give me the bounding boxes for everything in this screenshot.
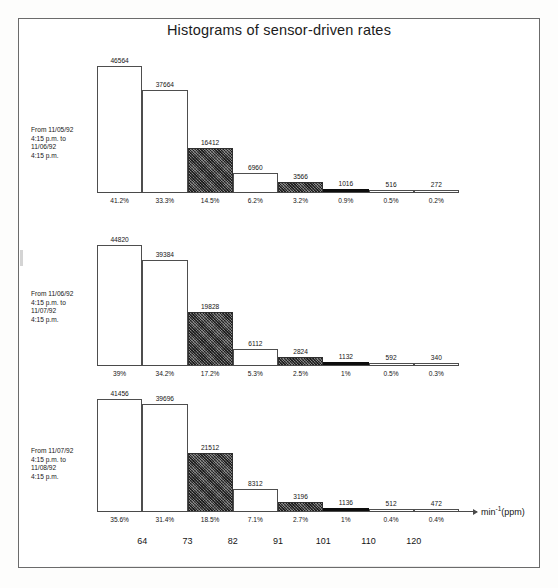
x-axis-unit-label: min-1(ppm) <box>481 505 525 517</box>
bar-percent-label: 2.7% <box>293 516 308 523</box>
x-axis-tick: 101 <box>316 536 331 546</box>
panel-baseline <box>97 192 459 193</box>
panel-baseline <box>97 511 459 512</box>
bar-percent-label: 6.2% <box>248 197 263 204</box>
bar-percent-label: 34.2% <box>156 370 175 377</box>
histogram-bar <box>414 509 459 511</box>
histogram-bar <box>233 173 278 192</box>
bar-percent-label: 35.6% <box>110 516 129 523</box>
bar-value-label: 472 <box>431 500 442 507</box>
bar-percent-label: 0.2% <box>429 197 444 204</box>
scanned-page: Histograms of sensor-driven rates From 1… <box>0 0 558 588</box>
histogram-bar <box>188 148 233 192</box>
histogram-bar <box>369 363 414 365</box>
bar-value-label: 3566 <box>293 173 308 180</box>
histogram-bar <box>414 363 459 365</box>
bar-value-label: 1132 <box>339 353 353 360</box>
histogram-bar <box>233 349 278 365</box>
histogram-bar <box>188 453 233 511</box>
bar-percent-label: 18.5% <box>201 516 220 523</box>
bar-value-label: 6112 <box>248 340 262 347</box>
bar-value-label: 8312 <box>248 480 263 487</box>
bar-percent-label: 0.3% <box>429 370 444 377</box>
bar-value-label: 6960 <box>248 164 263 171</box>
bar-value-label: 512 <box>386 500 397 507</box>
histogram-bar <box>233 489 278 511</box>
histogram-bar <box>369 509 414 511</box>
histogram-bar <box>278 502 323 511</box>
bar-percent-label: 33.3% <box>156 197 175 204</box>
bar-percent-label: 0.9% <box>338 197 353 204</box>
histogram-bar <box>97 245 142 365</box>
bar-percent-label: 3.2% <box>293 197 308 204</box>
bar-percent-label: 0.5% <box>384 197 399 204</box>
bar-value-label: 21512 <box>201 444 219 451</box>
bar-percent-label: 1% <box>341 516 351 523</box>
histogram-bar <box>414 190 459 192</box>
bar-percent-label: 0.4% <box>429 516 444 523</box>
bar-value-label: 592 <box>386 354 397 361</box>
histogram-bar <box>369 190 414 192</box>
histogram-bar <box>97 399 142 511</box>
x-axis-tick: 73 <box>182 536 192 546</box>
bar-percent-label: 14.5% <box>201 197 220 204</box>
bar-percent-label: 31.4% <box>156 516 175 523</box>
x-axis-tick: 91 <box>273 536 283 546</box>
histogram-bar <box>323 508 368 511</box>
bar-value-label: 19828 <box>201 303 219 310</box>
bar-percent-label: 1% <box>341 370 351 377</box>
bar-percent-label: 5.3% <box>248 370 263 377</box>
x-axis-tick: 64 <box>137 536 147 546</box>
x-axis-tick: 110 <box>361 536 375 546</box>
histogram-bar <box>323 362 368 365</box>
bar-percent-label: 17.2% <box>201 370 220 377</box>
histogram-bar <box>278 182 323 192</box>
figure-title: Histograms of sensor-driven rates <box>0 22 558 38</box>
bar-value-label: 1016 <box>339 180 354 187</box>
bar-value-label: 272 <box>431 181 442 188</box>
histogram-bar <box>188 312 233 365</box>
bar-value-label: 39696 <box>156 395 174 402</box>
panel-baseline <box>97 365 459 366</box>
histogram-bar <box>323 189 368 192</box>
bar-value-label: 16412 <box>201 139 219 146</box>
bar-percent-label: 0.4% <box>384 516 399 523</box>
histogram-bar <box>142 404 187 511</box>
scan-artifact <box>60 566 500 567</box>
x-axis-unit-exponent: -1 <box>496 505 502 512</box>
histogram-bar <box>142 90 187 192</box>
x-axis-tick: 82 <box>228 536 238 546</box>
scan-artifact <box>20 250 23 266</box>
bar-value-label: 44820 <box>110 236 128 243</box>
bar-value-label: 3196 <box>293 493 308 500</box>
bar-value-label: 340 <box>431 354 442 361</box>
bar-percent-label: 2.5% <box>293 370 308 377</box>
bar-value-label: 46564 <box>110 57 128 64</box>
bar-percent-label: 41.2% <box>110 197 129 204</box>
bar-value-label: 516 <box>386 181 397 188</box>
bar-percent-label: 7.1% <box>248 516 263 523</box>
bar-value-label: 41456 <box>110 390 128 397</box>
x-axis-arrow <box>455 511 477 512</box>
x-axis-tick: 120 <box>406 536 421 546</box>
bar-value-label: 37664 <box>156 81 174 88</box>
histogram-bar <box>278 357 323 365</box>
histogram-bar <box>97 66 142 192</box>
histogram-bar <box>142 260 187 365</box>
bar-percent-label: 39% <box>113 370 126 377</box>
bar-percent-label: 0.5% <box>384 370 399 377</box>
bar-value-label: 1136 <box>339 499 353 506</box>
bar-value-label: 39384 <box>156 251 174 258</box>
bar-value-label: 2824 <box>293 348 308 355</box>
